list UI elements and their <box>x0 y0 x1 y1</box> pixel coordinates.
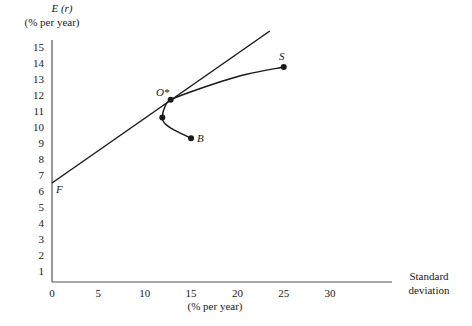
x-axis-label-line2: deviation <box>409 284 450 296</box>
y-tick-label: 10 <box>33 121 45 133</box>
y-tick-label: 9 <box>39 137 45 149</box>
y-tick-labels: 123456789101112131415 <box>33 41 45 277</box>
risk-return-chart: E (r) (% per year) 123456789101112131415… <box>0 0 472 326</box>
y-tick-label: 8 <box>39 153 45 165</box>
y-tick-label: 13 <box>33 73 45 85</box>
x-tick-label: 25 <box>278 287 290 299</box>
series-group <box>52 31 284 183</box>
opportunity-set-curve <box>162 67 283 138</box>
point-label: S <box>279 50 285 62</box>
point-marker <box>281 64 287 70</box>
x-tick-label: 15 <box>186 287 198 299</box>
y-tick-label: 14 <box>33 57 45 69</box>
point-label: B <box>197 132 204 144</box>
y-tick-label: 7 <box>39 169 45 181</box>
capital-allocation-line <box>52 31 270 183</box>
y-tick-label: 11 <box>33 105 44 117</box>
y-tick-label: 2 <box>39 249 45 261</box>
point-marker <box>159 114 165 120</box>
x-tick-label: 20 <box>232 287 244 299</box>
point-marker <box>188 135 194 141</box>
x-tick-labels: 051015202530 <box>49 287 336 299</box>
y-axis-label: E (r) <box>50 2 72 15</box>
point-label: F <box>55 183 63 195</box>
y-tick-label: 4 <box>39 217 45 229</box>
point-label: O* <box>156 86 170 98</box>
point-markers: FO*BS <box>55 50 287 195</box>
y-tick-label: 15 <box>33 41 45 53</box>
x-axis-unit: (% per year) <box>188 300 243 313</box>
axes <box>52 40 392 282</box>
y-tick-label: 5 <box>39 201 45 213</box>
y-tick-label: 3 <box>39 233 45 245</box>
x-tick-label: 5 <box>96 287 102 299</box>
y-tick-label: 6 <box>39 185 45 197</box>
x-tick-label: 30 <box>325 287 337 299</box>
y-axis-unit: (% per year) <box>25 16 80 29</box>
y-tick-label: 12 <box>33 89 44 101</box>
x-tick-label: 10 <box>139 287 151 299</box>
x-axis-label-line1: Standard <box>409 270 449 282</box>
x-tick-label: 0 <box>49 287 55 299</box>
y-tick-label: 1 <box>39 265 45 277</box>
